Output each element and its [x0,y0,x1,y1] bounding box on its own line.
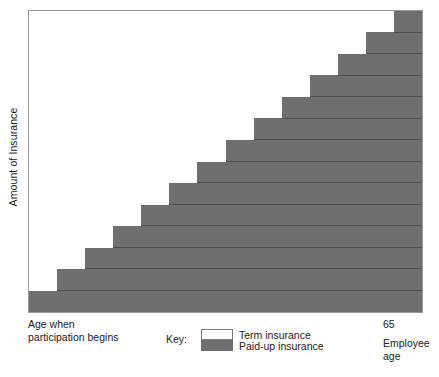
x-axis-start-caption: Age when participation begins [28,318,118,344]
paid-up-step [226,140,255,312]
x-axis-start-caption-line2: participation begins [28,331,118,344]
band-divider-line [394,32,422,33]
x-axis-label-line2: age [383,350,430,363]
legend-item-paid-up-insurance: Paid-up insurance [239,340,324,352]
plot-area [28,10,423,313]
band-divider-line [226,161,423,162]
paid-up-step [310,75,339,312]
band-divider-line [169,204,422,205]
x-axis-label-line1: Employee [383,337,430,350]
legend-title: Key: [166,333,187,345]
band-divider-line [366,53,422,54]
band-divider-line [57,290,422,291]
insurance-staircase-chart: Amount of Insurance Age when participati… [0,0,439,377]
paid-up-step [141,205,170,312]
band-divider-line [113,247,422,248]
paid-up-step [394,11,423,312]
y-axis-label: Amount of Insurance [0,0,26,314]
paid-up-step [254,118,283,312]
band-divider-line [338,75,422,76]
band-divider-line [282,118,422,119]
x-axis-start-caption-line1: Age when [28,318,118,331]
paid-up-step [85,248,114,312]
x-axis-label: Employee age [383,337,430,363]
paid-up-step [29,291,58,312]
paid-up-step [282,97,311,312]
band-divider-line [197,182,422,183]
term-insurance-swatch [201,329,233,340]
band-divider-line [85,268,422,269]
y-axis-label-text: Amount of Insurance [7,108,19,207]
x-axis-end-tick-label: 65 [383,318,395,330]
band-divider-line [141,225,422,226]
band-divider-line [254,139,422,140]
paid-up-step [338,54,367,312]
paid-up-insurance-swatch [201,340,233,351]
band-divider-line [310,96,422,97]
